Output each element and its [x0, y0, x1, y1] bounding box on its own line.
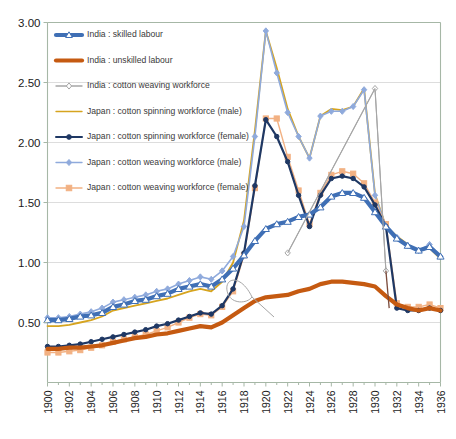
- y-tick-label: 2.50: [18, 77, 40, 89]
- data-point-marker: [274, 116, 279, 121]
- x-tick-label: 1904: [85, 390, 97, 414]
- x-tick-label: 1916: [216, 390, 228, 414]
- x-tick-label: 1926: [325, 390, 337, 414]
- data-point-marker: [296, 193, 300, 197]
- x-tick-label: 1932: [391, 390, 403, 414]
- data-point-marker: [351, 176, 355, 180]
- data-point-marker: [67, 135, 72, 140]
- legend-label: India : cotton weaving workforce: [87, 80, 210, 90]
- data-point-marker: [351, 171, 356, 176]
- chart-background: [0, 0, 456, 439]
- legend-label: Japan : cotton spinning workforce (femal…: [87, 131, 249, 141]
- data-point-marker: [307, 224, 311, 228]
- data-point-marker: [187, 314, 191, 318]
- x-tick-label: 1918: [238, 390, 250, 414]
- data-point-marker: [231, 287, 235, 291]
- legend-label: India : skilled labour: [87, 29, 163, 39]
- legend-label: India : unskilled labour: [87, 55, 173, 65]
- data-point-marker: [154, 324, 158, 328]
- data-point-marker: [264, 117, 268, 121]
- data-point-marker: [122, 332, 126, 336]
- x-tick-label: 1900: [42, 390, 54, 414]
- data-point-marker: [133, 330, 137, 334]
- data-point-marker: [209, 312, 213, 316]
- x-tick-label: 1922: [282, 390, 294, 414]
- y-tick-label: 0.50: [18, 317, 40, 329]
- data-point-marker: [198, 311, 202, 315]
- x-tick-label: 1902: [63, 390, 75, 414]
- legend-label: Japan : cotton spinning workforce (male): [87, 106, 242, 116]
- y-tick-label: 1.50: [18, 197, 40, 209]
- legend-label: Japan : cotton weaving workforce (female…: [87, 182, 249, 192]
- data-point-marker: [275, 134, 279, 138]
- data-point-marker: [100, 337, 104, 341]
- x-tick-label: 1910: [151, 390, 163, 414]
- data-point-marker: [373, 203, 377, 207]
- x-tick-label: 1936: [435, 390, 447, 414]
- data-point-marker: [329, 176, 333, 180]
- y-tick-label: 3.00: [18, 17, 40, 29]
- data-point-marker: [362, 185, 366, 189]
- x-tick-label: 1908: [129, 390, 141, 414]
- x-tick-label: 1928: [347, 390, 359, 414]
- data-point-marker: [340, 174, 344, 178]
- data-point-marker: [176, 318, 180, 322]
- data-point-marker: [340, 169, 345, 174]
- line-chart: 0.501.001.502.002.503.00 190019021904190…: [0, 0, 456, 439]
- x-tick-label: 1906: [107, 390, 119, 414]
- y-tick-label: 2.00: [18, 137, 40, 149]
- x-tick-label: 1912: [173, 390, 185, 414]
- x-tick-label: 1914: [194, 390, 206, 414]
- x-tick-label: 1930: [369, 390, 381, 414]
- data-point-marker: [285, 159, 289, 163]
- x-tick-label: 1924: [304, 390, 316, 414]
- data-point-marker: [66, 185, 71, 190]
- x-tick-label: 1934: [413, 390, 425, 414]
- data-point-marker: [165, 321, 169, 325]
- chart-container: 0.501.001.502.002.503.00 190019021904190…: [0, 0, 456, 439]
- data-point-marker: [144, 327, 148, 331]
- x-tick-label: 1920: [260, 390, 272, 414]
- data-point-marker: [220, 303, 224, 307]
- data-point-marker: [89, 339, 93, 343]
- data-point-marker: [253, 183, 257, 187]
- legend-label: Japan : cotton weaving workforce (male): [87, 157, 241, 167]
- data-point-marker: [111, 335, 115, 339]
- y-tick-label: 1.00: [18, 257, 40, 269]
